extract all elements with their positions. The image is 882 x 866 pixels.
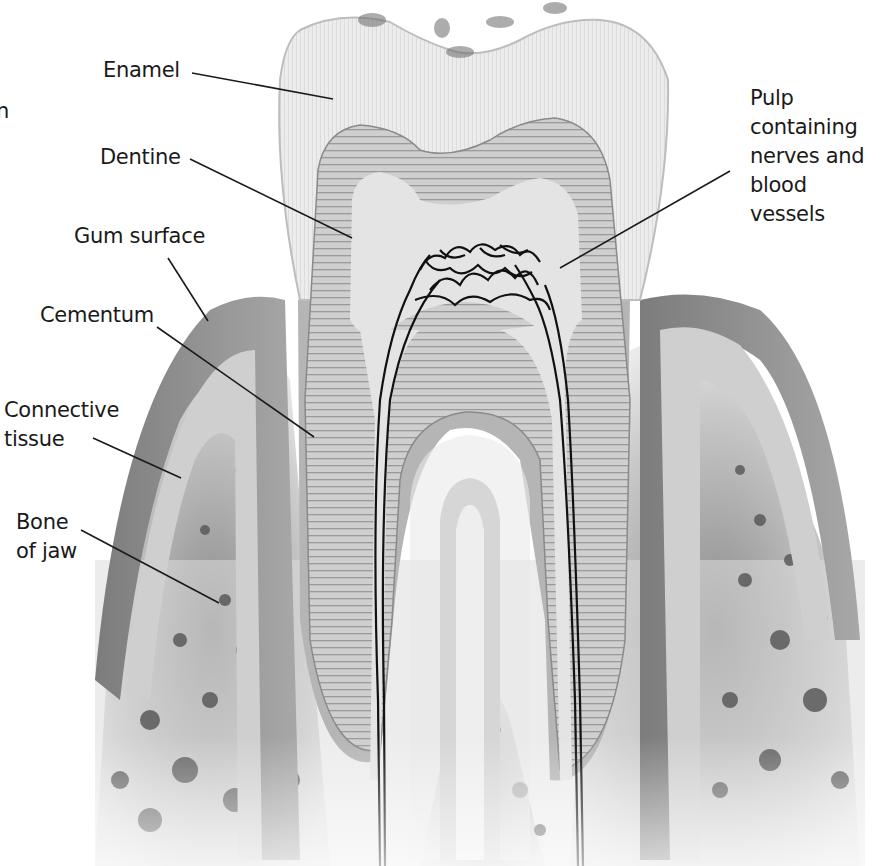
label-pulp: Pulp containing nerves and blood vessels	[750, 84, 864, 229]
label-gum-surface: Gum surface	[74, 222, 205, 251]
tooth-diagram: n Enamel Dentine Gum surface Cementum Co…	[0, 0, 882, 866]
label-enamel: Enamel	[103, 56, 180, 85]
partial-edge-text: n	[0, 97, 9, 126]
label-cementum: Cementum	[40, 301, 154, 330]
label-dentine: Dentine	[100, 143, 181, 172]
label-connective-tissue: Connective tissue	[4, 396, 119, 454]
label-bone-of-jaw: Bone of jaw	[16, 508, 77, 566]
